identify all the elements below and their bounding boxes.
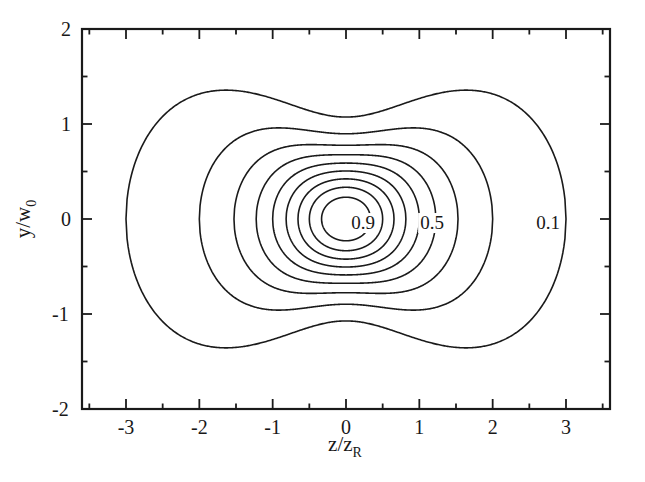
axis-ticks — [82, 29, 610, 409]
y-axis-title-subscript: 0 — [24, 200, 39, 207]
y-axis-title-text: y/w — [11, 207, 35, 239]
contour-plot-figure: -3-2-10123 -2-1012 0.90.50.1 z/zR y/w0 — [0, 0, 645, 482]
plot-canvas — [0, 0, 645, 482]
x-axis-title-subscript: R — [353, 445, 362, 460]
contour-line-0-7 — [298, 179, 394, 259]
y-tick-label: -1 — [52, 304, 69, 324]
axes-frame — [82, 29, 610, 409]
y-tick-label: -2 — [52, 399, 69, 419]
contour-line-0-6 — [286, 171, 406, 267]
y-tick-label: 0 — [61, 209, 71, 229]
x-tick-label: -1 — [264, 417, 281, 437]
y-axis-title: y/w0 — [13, 200, 38, 239]
x-tick-label: 2 — [488, 417, 498, 437]
contour-line-0-5 — [273, 163, 420, 275]
x-tick-label: 3 — [561, 417, 571, 437]
x-tick-label: -3 — [118, 417, 135, 437]
plot-frame — [82, 29, 610, 409]
contour-value-label: 0.1 — [534, 213, 562, 233]
x-tick-label: 1 — [414, 417, 424, 437]
contour-value-label: 0.5 — [418, 213, 446, 233]
x-axis-title-text: z/z — [328, 432, 352, 456]
y-tick-label: 1 — [61, 114, 71, 134]
contour-value-label: 0.9 — [349, 213, 377, 233]
contour-line-0-1 — [126, 90, 566, 348]
contour-curves — [126, 90, 566, 348]
x-axis-title: z/zR — [328, 434, 362, 459]
y-tick-label: 2 — [61, 19, 71, 39]
contour-line-0-4 — [256, 155, 436, 284]
x-tick-label: -2 — [191, 417, 208, 437]
